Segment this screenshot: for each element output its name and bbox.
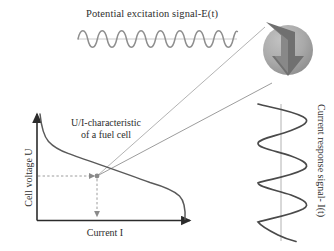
- chart-title-line-2: of a fuel cell: [81, 129, 131, 140]
- excitation-signal-title: Potential excitation signal-E(t): [86, 8, 218, 20]
- chart-title-line-1: U/I-characteristic: [71, 117, 141, 128]
- excitation-connector: [97, 27, 265, 176]
- response-sine-path: [258, 104, 307, 242]
- response-signal-title: Current response signal- I(t): [315, 102, 326, 220]
- response-waveform-group: [258, 104, 307, 242]
- connector-lines: [97, 27, 272, 176]
- y-axis-label: Cell voltage U: [23, 131, 34, 225]
- eis-diagram-figure: Potential excitation signal-E(t) U/I-cha…: [0, 0, 334, 251]
- x-axis-label: Current I: [62, 227, 148, 238]
- diagram-vector-layer: [0, 0, 334, 251]
- operating-point-marker: [95, 174, 100, 179]
- fuel-cell-sphere-icon: [263, 22, 313, 76]
- chart-title: U/I-characteristic of a fuel cell: [58, 117, 154, 141]
- excitation-waveform-group: [78, 31, 237, 48]
